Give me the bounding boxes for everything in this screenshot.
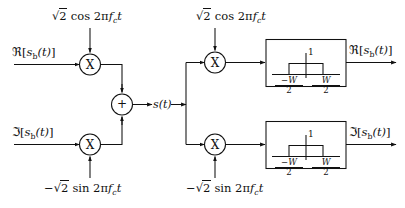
block-diagram-canvas: X X + X X ℜ[sb(t)] ℑ[sb(t)] √2 cos 2πfct…	[0, 0, 405, 208]
lowpass-filter-i-right-edge-label: W 2	[312, 76, 340, 95]
real-part-operator-icon: ℜ	[12, 45, 22, 59]
wire-mult-q-to-sum	[101, 118, 123, 145]
lowpass-filter-q-right-edge-label: W 2	[312, 158, 340, 177]
multiplier-i-rx-glyph: X	[208, 57, 222, 69]
wire-mult-i-to-sum	[101, 65, 123, 92]
sin-carrier-rx-label: −√2 sin 2πfct	[186, 183, 263, 197]
lowpass-filter-i-left-edge-label: −W 2	[275, 76, 303, 95]
cos-carrier-rx-label: √2 cos 2πfct	[196, 11, 266, 25]
real-output-label: ℜ[sb(t)]	[349, 45, 393, 59]
imag-input-label: ℑ[sb(t)]	[12, 127, 54, 141]
sin-carrier-tx-label: −√2 sin 2πfct	[44, 183, 121, 197]
imag-output-label: ℑ[sb(t)]	[349, 127, 391, 141]
sqrt-icon: √2	[54, 183, 69, 195]
lowpass-filter-q-gain-label: 1	[308, 130, 314, 139]
summer-glyph: +	[115, 98, 129, 110]
real-input-label: ℜ[sb(t)]	[12, 47, 56, 61]
lowpass-filter-i-gain-label: 1	[308, 48, 314, 57]
lowpass-filter-q-left-edge-label: −W 2	[275, 158, 303, 177]
real-part-operator-icon: ℜ	[349, 43, 359, 57]
multiplier-q-tx-glyph: X	[83, 139, 97, 151]
diagram-vector-layer	[0, 0, 405, 208]
cos-carrier-tx-label: √2 cos 2πfct	[52, 11, 122, 25]
imag-part-operator-icon: ℑ	[12, 125, 20, 139]
sqrt-icon: √2	[196, 183, 211, 195]
passband-signal-label: s(t)	[153, 99, 172, 110]
multiplier-q-rx-glyph: X	[208, 139, 222, 151]
multiplier-i-tx-glyph: X	[83, 59, 97, 71]
sqrt-icon: √2	[196, 11, 211, 23]
imag-part-operator-icon: ℑ	[349, 125, 357, 139]
sqrt-icon: √2	[52, 11, 67, 23]
